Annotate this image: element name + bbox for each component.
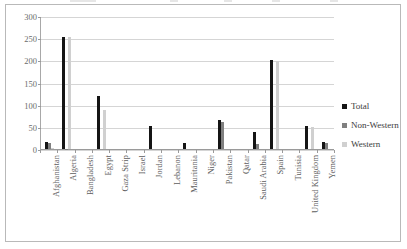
crop-artifact bbox=[70, 0, 96, 2]
x-axis-tick-mark bbox=[282, 150, 283, 153]
x-axis-label-egypt: Egypt bbox=[104, 155, 113, 176]
legend-label: Total bbox=[351, 101, 369, 111]
x-axis-tick-mark bbox=[75, 150, 76, 153]
bar-western bbox=[68, 37, 71, 149]
x-axis-tick-mark bbox=[92, 150, 93, 153]
legend-label: Non-Western bbox=[351, 120, 399, 130]
x-axis-tick-mark bbox=[196, 150, 197, 153]
bar-group bbox=[110, 17, 127, 149]
crop-artifact bbox=[272, 0, 280, 2]
x-axis-tick-mark bbox=[178, 150, 179, 153]
bar-group bbox=[266, 17, 283, 149]
y-axis-tick-label: 300 bbox=[24, 12, 37, 22]
bar-group bbox=[179, 17, 196, 149]
x-axis-label-spain: Spain bbox=[276, 155, 285, 175]
y-axis-tick-label: 250 bbox=[24, 34, 37, 44]
y-axis-tick-label: 200 bbox=[24, 56, 37, 66]
x-axis-tick-mark bbox=[161, 150, 162, 153]
bar-western bbox=[51, 148, 54, 149]
legend-item-non-western[interactable]: Non-Western bbox=[342, 120, 399, 130]
legend-swatch-icon bbox=[342, 123, 347, 128]
bar-group bbox=[300, 17, 317, 149]
bar-group bbox=[93, 17, 110, 149]
bar-western bbox=[103, 110, 106, 149]
bar-group bbox=[249, 17, 266, 149]
y-axis-tick-label: 100 bbox=[24, 101, 37, 111]
x-axis-tick-mark bbox=[40, 150, 41, 153]
x-axis-label-jordan: Jordan bbox=[155, 155, 164, 178]
legend-swatch-icon bbox=[342, 104, 347, 109]
x-axis-label-pakistan: Pakistan bbox=[225, 155, 234, 184]
x-axis-tick-mark bbox=[126, 150, 127, 153]
x-axis-label-qatar: Qatar bbox=[242, 155, 251, 174]
bar-total bbox=[305, 126, 308, 149]
crop-artifact bbox=[170, 0, 178, 2]
x-axis-label-yemen: Yemen bbox=[328, 155, 337, 179]
bar-total bbox=[97, 96, 100, 149]
bar-group bbox=[41, 17, 58, 149]
chart-screenshot: 050100150200250300 AfghanistanAlgeriaBan… bbox=[0, 0, 407, 249]
x-axis-label-gaza-strip: Gaza Strip bbox=[121, 155, 130, 192]
legend-item-western[interactable]: Western bbox=[342, 139, 399, 149]
chart-legend: TotalNon-WesternWestern bbox=[342, 101, 399, 149]
x-axis-tick-mark bbox=[317, 150, 318, 153]
bar-group bbox=[162, 17, 179, 149]
bar-group bbox=[283, 17, 300, 149]
bar-western bbox=[276, 61, 279, 149]
bar-group bbox=[197, 17, 214, 149]
x-axis-label-algeria: Algeria bbox=[69, 155, 78, 181]
x-axis-label-mauritania: Mauritania bbox=[190, 155, 199, 193]
bar-group bbox=[214, 17, 231, 149]
y-axis-tick-label: 0 bbox=[33, 145, 37, 155]
x-axis-label-lebanon: Lebanon bbox=[173, 155, 182, 185]
x-axis-tick-mark bbox=[109, 150, 110, 153]
gridline bbox=[41, 150, 334, 151]
bar-total bbox=[270, 60, 273, 149]
x-axis-label-niger: Niger bbox=[207, 155, 216, 175]
crop-artifact bbox=[330, 0, 338, 2]
bar-non-western bbox=[221, 122, 224, 149]
bar-group bbox=[145, 17, 162, 149]
bar-group bbox=[76, 17, 93, 149]
bar-non-western bbox=[256, 144, 259, 149]
x-axis-tick-mark bbox=[248, 150, 249, 153]
bar-group bbox=[231, 17, 248, 149]
y-axis-tick-label: 150 bbox=[24, 79, 37, 89]
x-axis-tick-mark bbox=[144, 150, 145, 153]
bar-group bbox=[318, 17, 335, 149]
bar-total bbox=[149, 126, 152, 149]
y-axis-tick-label: 50 bbox=[29, 123, 38, 133]
x-axis-tick-mark bbox=[230, 150, 231, 153]
x-axis-label-israel: Israel bbox=[138, 155, 147, 174]
x-axis-label-united-kingdom: United Kingdom bbox=[311, 155, 320, 213]
legend-swatch-icon bbox=[342, 142, 347, 147]
x-axis-label-bangladesh: Bangladesh bbox=[86, 155, 95, 195]
x-axis-label-tunisia: Tunisia bbox=[294, 155, 303, 181]
figure-frame: 050100150200250300 AfghanistanAlgeriaBan… bbox=[5, 4, 401, 242]
bar-non-western bbox=[325, 143, 328, 149]
legend-item-total[interactable]: Total bbox=[342, 101, 399, 111]
bars-layer bbox=[41, 17, 334, 149]
bar-group bbox=[58, 17, 75, 149]
legend-label: Western bbox=[351, 139, 380, 149]
x-axis-label-afghanistan: Afghanistan bbox=[52, 155, 61, 197]
x-axis-tick-mark bbox=[57, 150, 58, 153]
bar-western bbox=[311, 127, 314, 149]
bar-group bbox=[127, 17, 144, 149]
plot-area: 050100150200250300 bbox=[40, 17, 334, 150]
x-axis-label-saudi-arabia: Saudi Arabia bbox=[259, 155, 268, 200]
bar-total bbox=[62, 37, 65, 149]
x-axis-tick-mark bbox=[334, 150, 335, 153]
x-axis-tick-mark bbox=[299, 150, 300, 153]
x-axis-tick-mark bbox=[265, 150, 266, 153]
bar-total bbox=[183, 143, 186, 149]
crop-artifact bbox=[224, 0, 232, 2]
x-axis-tick-mark bbox=[213, 150, 214, 153]
